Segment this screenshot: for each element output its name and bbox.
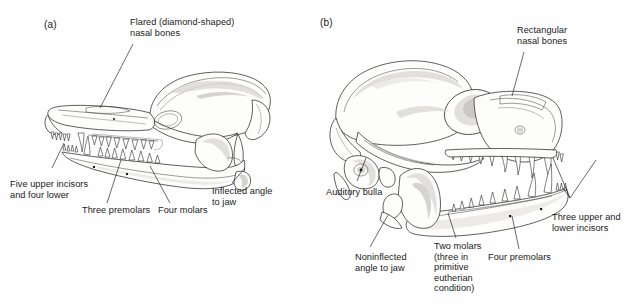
- upper-incisors-a: [51, 132, 70, 141]
- label-inflected-angle-to-jaw: Inflected angle to jaw: [212, 186, 273, 207]
- eutherian-skull-drawing: [330, 61, 568, 237]
- label-rectangular-nasal-bones: Rectangular nasal bones: [517, 25, 567, 46]
- label-three-premolars: Three premolars: [82, 205, 150, 216]
- marsupial-skull-drawing: [45, 72, 270, 190]
- label-four-molars: Four molars: [158, 205, 208, 216]
- label-noninflected-angle: Noninflected angle to jaw: [355, 252, 407, 273]
- label-five-upper-incisors: Five upper incisors and four lower: [10, 179, 88, 200]
- comparative-skull-figure: (a) (b): [0, 0, 632, 308]
- lower-incisors-a: [63, 144, 78, 152]
- label-two-molars: Two molars (three in primitive eutherian…: [434, 241, 481, 294]
- label-auditory-bulla: Auditory bulla: [326, 187, 382, 198]
- label-four-premolars: Four premolars: [488, 252, 551, 263]
- lower-incisors-b: [556, 183, 567, 190]
- label-three-upper-lower-incisors: Three upper and lower incisors: [552, 212, 621, 233]
- label-flared-nasal-bones: Flared (diamond-shaped) nasal bones: [130, 17, 234, 38]
